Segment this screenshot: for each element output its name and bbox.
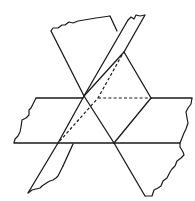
horizontal-plane [14, 98, 192, 143]
slanted-plane-x [51, 16, 184, 196]
hidden-lines [58, 55, 150, 143]
strip-torn-bottom-edge [28, 166, 63, 193]
slanted-plane-main-diagonal-edge [51, 31, 145, 196]
slanted-plane-right-edge-lower [124, 52, 151, 98]
slanted-plane-torn-top-edge [51, 16, 110, 31]
slanted-plane-torn-bottom-edge [145, 143, 184, 196]
three-planes-diagram [0, 0, 195, 201]
slanted-plane-intersection-edge [114, 98, 151, 143]
horizontal-plane-torn-left-edge [14, 98, 36, 143]
horizontal-plane-torn-right-edge [180, 98, 192, 143]
slanted-plane-right-edge-upper [110, 16, 117, 31]
strip-right-edge-lower [63, 144, 73, 166]
strip-left-edge [28, 20, 128, 193]
strip-inner-edge [84, 52, 124, 96]
dashed-diagonal-intersection [58, 55, 122, 143]
